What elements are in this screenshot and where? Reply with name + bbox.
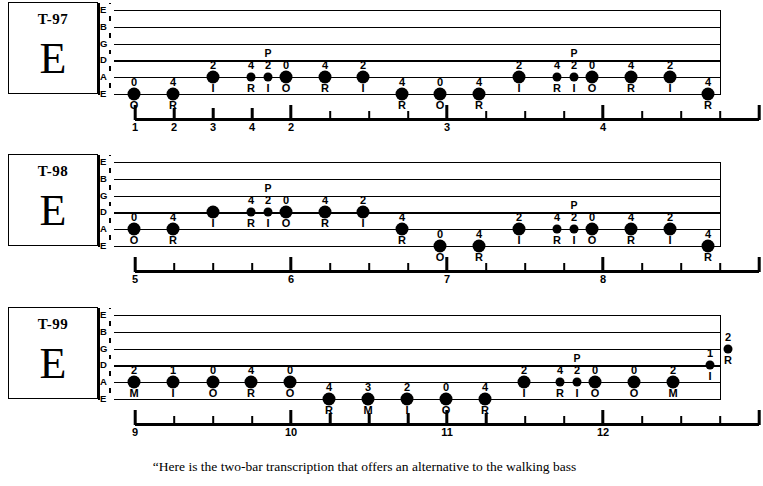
fret-number: 2: [725, 332, 731, 343]
ruler-tick-sub: [563, 111, 565, 118]
ruler-tick-sub: [641, 111, 643, 118]
fret-number: 2: [516, 60, 522, 71]
finger-label: R: [247, 218, 255, 229]
ruler-tick-measure: [601, 410, 604, 425]
finger-label: I: [361, 83, 364, 94]
articulation-label: P: [264, 183, 271, 194]
finger-label: R: [553, 83, 561, 94]
finger-label: R: [724, 355, 732, 366]
key-letter: E: [9, 181, 97, 241]
beat-number: 3: [210, 121, 216, 133]
fret-number: 4: [628, 60, 634, 71]
ruler-tick-sub: [719, 111, 721, 118]
tab-label-box: T-99E: [8, 307, 98, 399]
fret-number: 4: [628, 212, 634, 223]
finger-label: O: [588, 83, 597, 94]
finger-label: R: [247, 83, 255, 94]
ruler-tick-measure: [289, 410, 292, 425]
finger-label: O: [591, 388, 600, 399]
fret-number: 4: [399, 212, 405, 223]
ruler-tick-endcap: [758, 410, 761, 425]
finger-label: I: [668, 235, 671, 246]
page-caption: “Here is the two-bar transcription that …: [0, 458, 729, 475]
fret-number: 2: [667, 60, 673, 71]
fret-number: 4: [557, 365, 563, 376]
fret-number: 2: [360, 195, 366, 206]
ruler-tick-measure: [445, 410, 448, 425]
articulation-label: P: [570, 48, 577, 59]
fret-number: 4: [476, 229, 482, 240]
finger-label: I: [266, 218, 269, 229]
finger-label: M: [668, 388, 677, 399]
ruler-tick-endcap: [758, 257, 761, 272]
ruler-tick-sub: [680, 111, 682, 118]
fret-number: 0: [283, 60, 289, 71]
fret-number: 2: [131, 365, 137, 376]
string-name-1: B: [100, 326, 114, 338]
fret-number: 0: [437, 229, 443, 240]
beat-number: 3: [444, 121, 450, 133]
finger-label: M: [129, 388, 138, 399]
finger-label: I: [572, 235, 575, 246]
fret-number: 4: [554, 212, 560, 223]
string-name-3: D: [100, 54, 114, 66]
ruler-tick-measure: [289, 257, 292, 272]
rhythm-ruler: 1234234: [135, 106, 763, 132]
beat-number: 4: [249, 121, 255, 133]
fret-number: 2: [574, 365, 580, 376]
ruler-tick-sub: [173, 416, 175, 423]
ruler-tick-sub: [251, 416, 253, 423]
fret-number: 4: [705, 77, 711, 88]
fret-number: 0: [287, 365, 293, 376]
fret-number: 0: [589, 212, 595, 223]
ruler-tick-sub: [212, 263, 214, 270]
finger-label: O: [630, 388, 639, 399]
fret-number: 2: [210, 60, 216, 71]
ruler-tick-measure: [289, 105, 292, 120]
rhythm-ruler: 5678: [135, 258, 763, 284]
note-dot: [553, 225, 562, 234]
note-dot: [247, 73, 256, 82]
tab-label-box: T-98E: [8, 154, 98, 246]
string-name-2: G: [100, 190, 114, 202]
finger-label: I: [708, 371, 711, 382]
beat-number: 8: [600, 273, 606, 285]
fret-number: 4: [322, 60, 328, 71]
ruler-tick-beat: [407, 413, 410, 425]
fret-number: 3: [365, 382, 371, 393]
string-name-1: B: [100, 173, 114, 185]
finger-label: R: [553, 235, 561, 246]
finger-label: O: [282, 83, 291, 94]
finger-label: I: [572, 83, 575, 94]
finger-label: I: [517, 83, 520, 94]
beat-number: 9: [132, 426, 138, 438]
string-name-3: D: [100, 359, 114, 371]
fret-number: 4: [399, 77, 405, 88]
beat-number: 6: [288, 273, 294, 285]
key-letter: E: [9, 334, 97, 394]
fret-number: 1: [707, 348, 713, 359]
ruler-tick-sub: [563, 263, 565, 270]
beat-number: 12: [597, 426, 609, 438]
note-dot: [570, 225, 579, 234]
finger-label: R: [247, 388, 255, 399]
fret-number: 0: [631, 365, 637, 376]
ruler-tick-sub: [329, 111, 331, 118]
string-name-0: E: [100, 156, 114, 168]
fret-number: 0: [131, 77, 137, 88]
fret-number: 2: [265, 195, 271, 206]
fret-number: 2: [670, 365, 676, 376]
fret-number: 0: [589, 60, 595, 71]
ruler-tick-endcap: [134, 105, 137, 120]
string-name-5: E: [100, 88, 114, 100]
finger-label: O: [286, 388, 295, 399]
beat-number: 10: [285, 426, 297, 438]
string-name-5: E: [100, 393, 114, 405]
ruler-tick-sub: [524, 416, 526, 423]
ruler-tick-sub: [719, 416, 721, 423]
note-dot: [570, 73, 579, 82]
ruler-tick-sub: [680, 263, 682, 270]
ruler-tick-sub: [407, 111, 409, 118]
fret-number: 4: [554, 60, 560, 71]
